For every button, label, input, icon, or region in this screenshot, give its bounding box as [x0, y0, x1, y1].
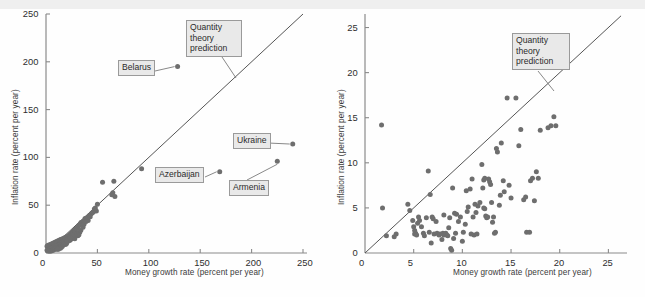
y-tick-label: 0: [353, 247, 358, 258]
data-point: [412, 228, 417, 233]
x-tick-label: 5: [408, 257, 413, 268]
data-point: [498, 193, 503, 198]
data-point: [419, 224, 424, 229]
x-tick-label: 0: [40, 257, 45, 268]
data-point: [527, 230, 532, 235]
leader-azerbaijan: [205, 172, 217, 177]
data-point: [501, 178, 506, 183]
data-point: [407, 208, 412, 213]
data-point: [485, 214, 490, 219]
callout-armenia[interactable]: Armenia: [229, 180, 269, 196]
data-point: [451, 236, 456, 241]
callout-quantity-theory-left[interactable]: Quantity theory prediction: [186, 20, 242, 57]
data-point: [538, 128, 543, 133]
x-tick-label: 10: [456, 257, 466, 268]
data-point: [394, 232, 399, 237]
data-points: [45, 64, 296, 254]
y-axis-title-right: Inflation rate (percent per year): [337, 89, 346, 205]
data-point: [518, 127, 523, 132]
leader-quantity-theory-right: [538, 71, 554, 91]
data-point: [379, 122, 384, 127]
data-point: [426, 168, 431, 173]
data-points: [379, 95, 558, 252]
data-point: [477, 200, 482, 205]
data-point: [405, 202, 410, 207]
data-point: [534, 169, 539, 174]
callout-ukraine[interactable]: Ukraine: [233, 133, 271, 149]
x-tick-label: 250: [297, 257, 313, 268]
x-tick-label: 25: [602, 257, 612, 268]
data-point: [469, 232, 474, 237]
scatter-plot-right: [323, 0, 645, 297]
data-point: [479, 162, 484, 167]
data-point: [502, 189, 507, 194]
data-point: [441, 213, 446, 218]
x-tick-label: 150: [194, 257, 210, 268]
data-point: [67, 236, 72, 241]
x-axis-title-left: Money growth rate (percent per year): [125, 268, 264, 277]
data-point: [449, 248, 454, 253]
callout-belarus[interactable]: Belarus: [118, 60, 155, 76]
data-point: [430, 214, 435, 219]
data-point: [536, 176, 541, 181]
data-point: [384, 233, 389, 238]
data-point: [497, 203, 502, 208]
data-point: [456, 219, 461, 224]
data-point: [112, 194, 117, 199]
data-point: [473, 210, 478, 215]
data-point: [513, 95, 518, 100]
data-point: [516, 143, 521, 148]
y-tick-label: 5: [353, 202, 358, 213]
data-point: [460, 239, 465, 244]
data-point: [488, 182, 493, 187]
x-axis-title-right: Money growth rate (percent per year): [453, 268, 592, 277]
data-point: [427, 230, 432, 235]
data-point: [489, 200, 494, 205]
data-point: [275, 159, 280, 164]
y-tick-label: 25: [347, 22, 357, 33]
data-point: [490, 220, 495, 225]
data-point: [410, 218, 415, 223]
data-point: [482, 206, 487, 211]
data-point: [416, 214, 421, 219]
data-point: [447, 215, 452, 220]
data-point: [468, 186, 473, 191]
data-point: [175, 64, 180, 69]
data-point: [466, 205, 471, 210]
data-point: [458, 214, 463, 219]
x-tick-label: 0: [359, 257, 364, 268]
y-tick-label: 200: [23, 56, 39, 67]
data-point: [507, 183, 512, 188]
data-point: [445, 233, 450, 238]
scatter-plot-left: [0, 0, 322, 297]
data-point: [429, 241, 434, 246]
y-tick-label: 10: [347, 157, 357, 168]
data-point: [509, 195, 514, 200]
data-point: [380, 205, 385, 210]
data-point: [465, 209, 470, 214]
data-point: [46, 249, 51, 254]
data-point: [474, 232, 479, 237]
callout-quantity-theory-right[interactable]: Quantity theory prediction: [512, 33, 570, 70]
y-tick-label: 50: [28, 199, 38, 210]
data-point: [463, 222, 468, 227]
data-point: [290, 142, 295, 147]
data-point: [482, 176, 487, 181]
data-point: [424, 215, 429, 220]
y-tick-label: 15: [347, 112, 357, 123]
data-point: [499, 140, 504, 145]
leader-armenia: [247, 164, 277, 180]
data-point: [452, 211, 457, 216]
callout-azerbaijan[interactable]: Azerbaijan: [155, 167, 204, 183]
data-point: [461, 230, 466, 235]
data-point: [495, 149, 500, 154]
data-point: [530, 176, 535, 181]
data-point: [553, 123, 558, 128]
y-tick-label: 150: [23, 104, 39, 115]
data-point: [139, 166, 144, 171]
data-point: [446, 225, 451, 230]
data-point: [450, 186, 455, 191]
data-point: [548, 123, 553, 128]
data-point: [111, 179, 116, 184]
data-point: [434, 219, 439, 224]
